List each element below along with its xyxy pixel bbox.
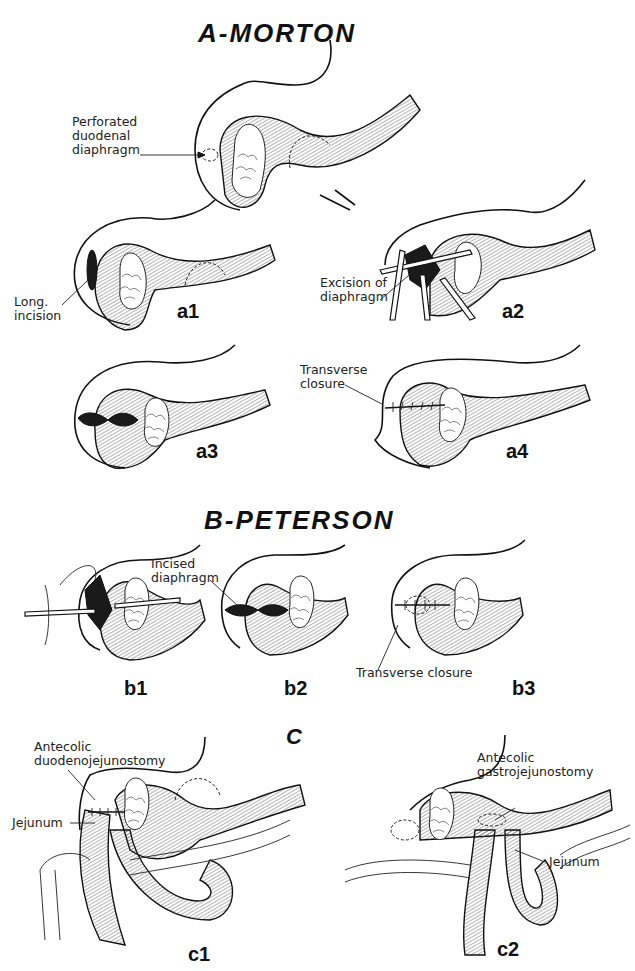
panel-a3-drawing — [75, 345, 270, 468]
panel-c1-drawing — [40, 737, 305, 945]
panel-label-b1: b1 — [124, 677, 147, 700]
panel-a4-drawing — [345, 345, 590, 468]
panel-label-a4: a4 — [506, 440, 528, 463]
annotation-excision-of-diaphragm: Excision of diaphragm — [320, 276, 388, 304]
panel-label-a2: a2 — [502, 300, 524, 323]
panel-a0-drawing — [140, 40, 420, 210]
panel-b2-drawing — [210, 545, 348, 655]
annotation-perforated-duodenal-diaphragm: Perforated duodenal diaphragm — [72, 115, 140, 157]
section-title-a: A-MORTON — [198, 18, 356, 49]
annotation-transverse-closure-a4: Transverse closure — [300, 363, 367, 391]
annotation-antecolic-gastrojejunostomy: Antecolic gastrojejunostomy — [477, 751, 593, 779]
panel-a1-drawing — [62, 200, 275, 330]
annotation-jejunum-c1: Jejunum — [12, 816, 63, 830]
panel-label-a1: a1 — [177, 300, 199, 323]
section-title-c: C — [286, 724, 304, 750]
panel-label-b2: b2 — [284, 677, 307, 700]
annotation-antecolic-duodenojejunostomy: Antecolic duodenojejunostomy — [34, 740, 165, 768]
panel-a2-drawing — [380, 180, 595, 320]
panel-b3-drawing — [378, 540, 525, 670]
panel-label-b3: b3 — [512, 677, 535, 700]
panel-label-c1: c1 — [188, 943, 210, 966]
annotation-jejunum-c2: Jejunum — [549, 855, 600, 869]
annotation-transverse-closure-b3: Transverse closure — [356, 666, 472, 680]
panel-label-a3: a3 — [196, 440, 218, 463]
section-title-b: B-PETERSON — [204, 505, 394, 536]
annotation-long-incision: Long. incision — [14, 295, 61, 323]
panel-label-c2: c2 — [497, 938, 519, 961]
annotation-incised-diaphragm: Incised diaphragm — [151, 557, 219, 585]
